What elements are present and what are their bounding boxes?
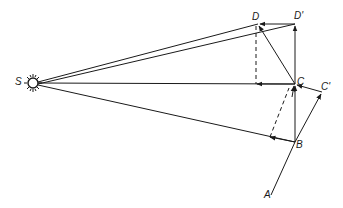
vector-C-D xyxy=(259,26,295,84)
label-S: S xyxy=(15,77,22,87)
vector-into-C xyxy=(292,86,294,97)
path-A-B xyxy=(271,142,295,195)
label-C: C xyxy=(297,77,304,87)
diagram-canvas: S D D' C C' B A xyxy=(0,0,343,208)
label-D: D xyxy=(252,12,259,22)
vector-B-toward-S xyxy=(270,137,295,142)
orbit-vector-diagram xyxy=(0,0,343,208)
ray-S-B xyxy=(38,85,295,142)
ray-S-D xyxy=(38,24,258,82)
label-D-prime: D' xyxy=(294,11,303,21)
dashed-B-projection xyxy=(270,88,289,137)
vector-B-Cprime xyxy=(295,94,321,142)
label-B: B xyxy=(296,140,303,150)
label-C-prime: C' xyxy=(321,82,330,92)
label-A: A xyxy=(264,190,271,200)
